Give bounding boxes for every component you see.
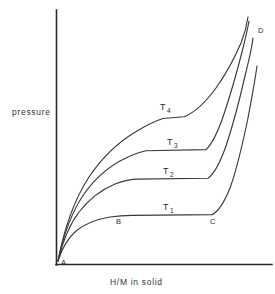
curve-label-t2-subscript: 2 [170, 171, 174, 178]
point-label-d: D [258, 26, 264, 35]
curve-label-t4-text: T [160, 102, 166, 112]
x-axis-label: H/M in solid [110, 277, 163, 287]
point-label-a: A [61, 258, 66, 267]
y-axis-label: pressure [12, 107, 51, 117]
point-labels-group: A B C D [61, 26, 264, 267]
axes-group [56, 10, 272, 265]
curve-label-t4-subscript: 4 [167, 107, 171, 114]
point-label-b: B [116, 217, 121, 226]
curve-label-t1-text: T [163, 202, 169, 212]
curve-label-t1-subscript: 1 [170, 207, 174, 214]
curve-label-t4: T 4 [160, 102, 171, 114]
curve-label-t2-text: T [163, 166, 169, 176]
curve-label-t1: T 1 [163, 202, 174, 214]
curve-label-t3-text: T [167, 137, 173, 147]
isotherm-curve-t1 [58, 66, 257, 261]
pct-isotherm-figure: T 1 T 2 T 3 T 4 A B C D pressure [0, 0, 275, 294]
isotherm-curves-group [58, 17, 257, 261]
isotherm-curve-t2 [58, 38, 253, 261]
curve-label-t3: T 3 [167, 137, 178, 149]
curve-label-t3-subscript: 3 [174, 142, 178, 149]
isotherm-curve-t3 [58, 21, 249, 261]
isotherm-plot-svg: T 1 T 2 T 3 T 4 A B C D pressure [0, 0, 275, 294]
point-label-c: C [210, 217, 216, 226]
curve-label-t2: T 2 [163, 166, 174, 178]
